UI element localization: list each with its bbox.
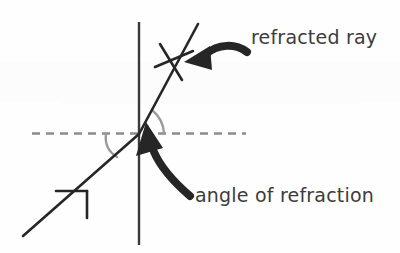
label-refracted-ray: refracted ray xyxy=(251,28,377,47)
incident-ray-line xyxy=(23,134,139,236)
background-artifacts xyxy=(0,62,400,104)
label-angle-of-refraction: angle of refraction xyxy=(195,186,374,205)
refraction-diagram-figure: refracted ray angle of refraction xyxy=(0,0,400,253)
angle-of-refraction-arc xyxy=(152,110,164,133)
